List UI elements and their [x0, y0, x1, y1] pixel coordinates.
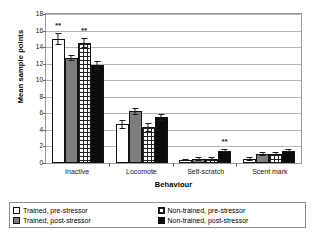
- y-axis-title: Mean sample points: [16, 7, 25, 127]
- bar[interactable]: [282, 151, 295, 163]
- error-bar: [185, 159, 186, 161]
- error-bar: [198, 157, 199, 160]
- bar-chart-figure: Mean sample points 024681012141618 *****…: [0, 0, 318, 237]
- error-bar: [275, 152, 276, 156]
- y-axis-tick-mark: [43, 163, 46, 164]
- bar-slot: [91, 14, 104, 163]
- bar-slot: **: [218, 14, 231, 163]
- error-bar: [224, 149, 225, 152]
- bar-slot: [65, 14, 78, 163]
- bar-slot: [282, 14, 295, 163]
- legend-label: Non-trained, post-stressor: [168, 217, 249, 224]
- significance-marker: **: [81, 27, 87, 34]
- legend-item[interactable]: Non-trained, pre-stressor: [158, 205, 303, 215]
- error-bar: [58, 33, 59, 45]
- bar-slot: **: [52, 14, 65, 163]
- x-axis-category-locomote: Locomote: [109, 168, 173, 175]
- error-bar: [288, 149, 289, 152]
- bar-slot: [129, 14, 142, 163]
- error-bar: [161, 114, 162, 121]
- bar-slot: [179, 14, 192, 163]
- legend-item[interactable]: Trained, post-stressor: [13, 215, 158, 225]
- error-bar: [211, 157, 212, 160]
- bar-group-scent-mark: [237, 14, 301, 163]
- x-axis-title: Behaviour: [45, 180, 302, 189]
- bar-slot: **: [78, 14, 91, 163]
- bar-slot: [269, 14, 282, 163]
- legend-label: Trained, pre-stressor: [23, 207, 88, 214]
- x-axis-tick-labels: InactiveLocomoteSelf-scratchScent mark: [45, 168, 302, 175]
- x-axis-group-separator: [173, 163, 174, 167]
- bar[interactable]: [155, 117, 168, 163]
- error-bar: [97, 61, 98, 70]
- bar-groups: ******: [46, 14, 301, 163]
- legend-label: Trained, post-stressor: [23, 217, 91, 224]
- error-bar: [122, 120, 123, 129]
- bar-group-locomote: [110, 14, 174, 163]
- error-bar: [84, 38, 85, 48]
- legend-item[interactable]: Trained, pre-stressor: [13, 205, 158, 215]
- bar[interactable]: [129, 111, 142, 163]
- bar-slot: [205, 14, 218, 163]
- bar-slot: [142, 14, 155, 163]
- legend-swatch-icon: [13, 207, 20, 214]
- error-bar: [148, 123, 149, 131]
- bar[interactable]: [65, 58, 78, 163]
- bar[interactable]: [78, 43, 91, 163]
- bar[interactable]: [142, 127, 155, 163]
- x-axis-category-scent-mark: Scent mark: [238, 168, 302, 175]
- legend-item[interactable]: Non-trained, post-stressor: [158, 215, 303, 225]
- legend-label: Non-trained, pre-stressor: [168, 207, 246, 214]
- legend-swatch-icon: [158, 217, 165, 224]
- x-axis-category-self-scratch: Self-scratch: [174, 168, 238, 175]
- error-bar: [135, 108, 136, 115]
- bar-group-inactive: ****: [46, 14, 110, 163]
- bar-slot: [256, 14, 269, 163]
- x-axis-group-separator: [236, 163, 237, 167]
- error-bar: [71, 55, 72, 61]
- bar[interactable]: [52, 39, 65, 163]
- bar[interactable]: [218, 151, 231, 163]
- bar[interactable]: [91, 65, 104, 163]
- bar-slot: [243, 14, 256, 163]
- legend-swatch-icon: [158, 207, 165, 214]
- bar-slot: [192, 14, 205, 163]
- x-axis-category-inactive: Inactive: [45, 168, 109, 175]
- significance-marker: **: [222, 138, 228, 145]
- error-bar: [262, 152, 263, 156]
- bar-slot: [116, 14, 129, 163]
- significance-marker: **: [55, 22, 61, 29]
- error-bar: [249, 157, 250, 160]
- bar[interactable]: [116, 124, 129, 163]
- bar-group-self-scratch: **: [174, 14, 238, 163]
- x-axis-group-separator: [109, 163, 110, 167]
- plot-area: 024681012141618 ******: [45, 13, 302, 164]
- chart-legend: Trained, pre-stressorNon-trained, pre-st…: [9, 202, 306, 228]
- bar-slot: [155, 14, 168, 163]
- legend-swatch-icon: [13, 217, 20, 224]
